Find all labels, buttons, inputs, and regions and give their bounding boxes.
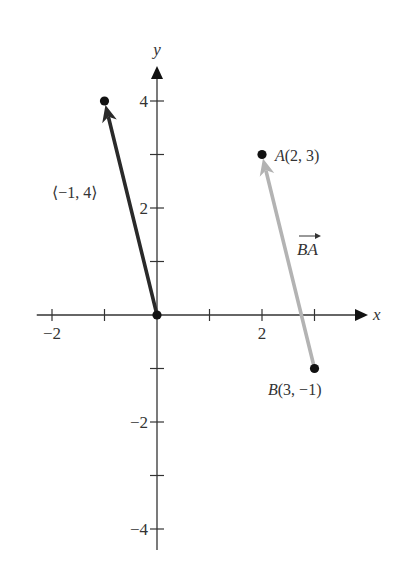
point-A [257,150,266,159]
vector-BA-label-text: BA [297,240,318,259]
point-B-letter: B [268,381,278,398]
position-vector-shaft [109,118,157,315]
vector-BA-label: BA [297,233,321,259]
position-vector-label: ⟨−1, 4⟩ [52,184,98,201]
point-origin [152,310,161,319]
y-tick-label: 4 [140,92,149,111]
point-A-label: A(2, 3) [274,147,319,165]
point-A-coords: (2, 3) [285,147,320,165]
vector-BA-shaft [266,172,314,369]
vectors [102,105,314,369]
x-axis-arrowhead-icon [355,309,368,321]
vector-overarrow-head-icon [315,233,321,239]
y-axis-label: y [151,40,161,59]
position-vector [102,105,157,315]
x-tick-label: −2 [43,324,61,343]
y-tick-label: −2 [130,413,148,432]
vector-BA [260,158,315,368]
point-A-letter: A [274,147,285,164]
point-B-label: B(3, −1) [268,381,321,399]
y-axis-arrowhead-icon [151,66,163,79]
point-tip [100,96,109,105]
point-B-coords: (3, −1) [278,381,322,399]
y-tick-label: −4 [130,520,149,539]
points [100,96,319,373]
labels: ⟨−1, 4⟩ BA A(2, 3) B(3, −1) [52,147,321,399]
x-axis-label: x [372,305,381,324]
x-tick-label: 2 [258,324,267,343]
vector-diagram: −22 42−2−4 x y ⟨−1, 4⟩ BA A(2, 3) B(3, −… [0,0,404,568]
x-tick-labels: −22 [43,324,266,343]
y-tick-label: 2 [140,199,149,218]
axes: −22 42−2−4 x y [37,40,381,550]
point-B [310,364,319,373]
